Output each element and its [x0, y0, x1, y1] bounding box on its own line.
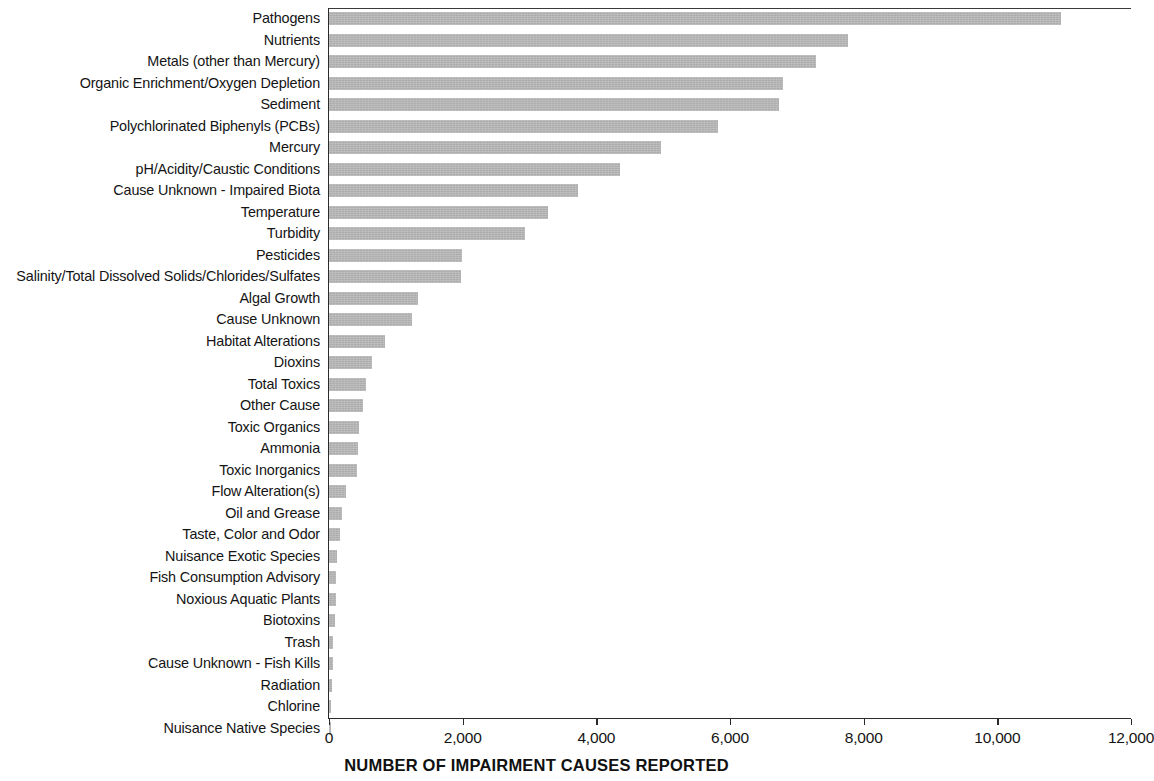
bar-row: Organic Enrichment/Oxygen Depletion	[0, 73, 1147, 95]
category-label: Toxic Inorganics	[0, 460, 324, 482]
bar	[329, 378, 366, 391]
bar	[329, 485, 346, 498]
bar-row: Polychlorinated Biphenyls (PCBs)	[0, 116, 1147, 138]
bar-row: Radiation	[0, 675, 1147, 697]
bar-track	[329, 331, 1147, 353]
x-tick-mark	[596, 719, 597, 725]
category-label: Cause Unknown	[0, 309, 324, 331]
bar-row: Noxious Aquatic Plants	[0, 589, 1147, 611]
category-label: Nuisance Native Species	[0, 718, 324, 740]
bar	[329, 55, 816, 68]
bar	[329, 593, 336, 606]
bar-row: Nutrients	[0, 30, 1147, 52]
category-label: Turbidity	[0, 223, 324, 245]
bar	[329, 184, 578, 197]
bar-row: Fish Consumption Advisory	[0, 567, 1147, 589]
bar-row: Biotoxins	[0, 610, 1147, 632]
category-label: Sediment	[0, 94, 324, 116]
category-label: Ammonia	[0, 438, 324, 460]
category-label: Metals (other than Mercury)	[0, 51, 324, 73]
category-label: Toxic Organics	[0, 417, 324, 439]
bar-track	[329, 30, 1147, 52]
bar-row: Flow Alteration(s)	[0, 481, 1147, 503]
bar-row: Ammonia	[0, 438, 1147, 460]
bar-row: Salinity/Total Dissolved Solids/Chloride…	[0, 266, 1147, 288]
category-label: Noxious Aquatic Plants	[0, 589, 324, 611]
bar-row: Total Toxics	[0, 374, 1147, 396]
bar-track	[329, 438, 1147, 460]
category-label: pH/Acidity/Caustic Conditions	[0, 159, 324, 181]
bar-track	[329, 374, 1147, 396]
plot-area: PathogensNutrientsMetals (other than Mer…	[0, 0, 1147, 726]
category-label: Pesticides	[0, 245, 324, 267]
category-label: Other Cause	[0, 395, 324, 417]
bar-row: Taste, Color and Odor	[0, 524, 1147, 546]
bar-track	[329, 524, 1147, 546]
bar-track	[329, 245, 1147, 267]
category-label: Algal Growth	[0, 288, 324, 310]
bar-row: Temperature	[0, 202, 1147, 224]
bar-row: Toxic Inorganics	[0, 460, 1147, 482]
bar-row: Cause Unknown - Fish Kills	[0, 653, 1147, 675]
x-tick-mark	[329, 719, 330, 725]
bar-track	[329, 352, 1147, 374]
x-axis-title: NUMBER OF IMPAIRMENT CAUSES REPORTED	[0, 756, 1147, 775]
bar-row: Toxic Organics	[0, 417, 1147, 439]
category-label: Oil and Grease	[0, 503, 324, 525]
bar-track	[329, 503, 1147, 525]
bar-track	[329, 51, 1147, 73]
category-label: Cause Unknown - Impaired Biota	[0, 180, 324, 202]
bar-track	[329, 94, 1147, 116]
bar-row: pH/Acidity/Caustic Conditions	[0, 159, 1147, 181]
bar-track	[329, 8, 1147, 30]
bar-track	[329, 309, 1147, 331]
x-tick-mark	[997, 719, 998, 725]
bar	[329, 34, 848, 47]
bar	[329, 335, 385, 348]
bar-row: Algal Growth	[0, 288, 1147, 310]
bar	[329, 98, 779, 111]
category-label: Dioxins	[0, 352, 324, 374]
bar	[329, 507, 342, 520]
bar	[329, 206, 548, 219]
category-label: Pathogens	[0, 8, 324, 30]
x-tick-mark	[864, 719, 865, 725]
bar	[329, 679, 332, 692]
bar	[329, 77, 783, 90]
bar-track	[329, 395, 1147, 417]
category-label: Temperature	[0, 202, 324, 224]
x-tick-mark	[463, 719, 464, 725]
category-label: Mercury	[0, 137, 324, 159]
bar-track	[329, 266, 1147, 288]
bar-track	[329, 610, 1147, 632]
bar-row: Oil and Grease	[0, 503, 1147, 525]
bar-row: Pathogens	[0, 8, 1147, 30]
bar	[329, 421, 359, 434]
category-label: Taste, Color and Odor	[0, 524, 324, 546]
bar	[329, 464, 357, 477]
x-tick-label: 4,000	[577, 728, 615, 747]
bar	[329, 227, 525, 240]
category-label: Cause Unknown - Fish Kills	[0, 653, 324, 675]
bar	[329, 550, 337, 563]
bar-track	[329, 460, 1147, 482]
bar-track	[329, 288, 1147, 310]
bar-row: Turbidity	[0, 223, 1147, 245]
bar	[329, 292, 418, 305]
bar-row: Dioxins	[0, 352, 1147, 374]
category-label: Salinity/Total Dissolved Solids/Chloride…	[0, 266, 324, 288]
bar-row: Sediment	[0, 94, 1147, 116]
bar-track	[329, 180, 1147, 202]
bar-track	[329, 632, 1147, 654]
bar	[329, 12, 1061, 25]
bar-track	[329, 202, 1147, 224]
bar-row: Habitat Alterations	[0, 331, 1147, 353]
bar	[329, 528, 340, 541]
bar	[329, 163, 620, 176]
x-tick-label: 2,000	[444, 728, 482, 747]
category-label: Trash	[0, 632, 324, 654]
bar-track	[329, 137, 1147, 159]
bar	[329, 571, 336, 584]
x-tick-label: 10,000	[974, 728, 1020, 747]
